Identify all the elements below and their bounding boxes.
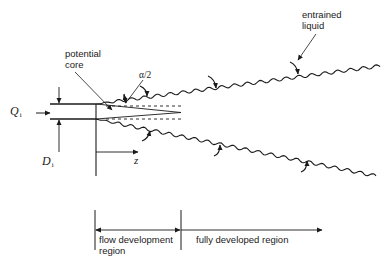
diameter-symbol: D bbox=[42, 154, 51, 168]
flow-development-region-label: flow development region bbox=[99, 234, 173, 256]
z-label: z bbox=[134, 155, 138, 166]
entrained-liquid-label-line2: liquid bbox=[302, 20, 342, 31]
flow-development-label-line1: flow development bbox=[99, 234, 173, 245]
half-angle-leader bbox=[128, 80, 143, 100]
half-angle-label: α/2 bbox=[139, 70, 151, 81]
flow-development-arrow-back bbox=[95, 228, 101, 233]
potential-core-label: potential core bbox=[65, 48, 101, 70]
entrainment-arrow-3 bbox=[290, 62, 298, 74]
entrainment-arrow-5 bbox=[214, 145, 220, 156]
entrained-liquid-leader bbox=[298, 34, 316, 60]
jet-boundary-lower bbox=[96, 119, 376, 176]
entrainment-arrow-4 bbox=[142, 131, 150, 141]
flow-rate-subscript: i bbox=[20, 111, 22, 119]
diameter-subscript: i bbox=[52, 161, 54, 169]
jet-diagram bbox=[0, 0, 388, 266]
entrained-liquid-label-line1: entrained bbox=[302, 9, 342, 20]
potential-core-lower bbox=[96, 113, 181, 120]
potential-core-label-line2: core bbox=[65, 59, 101, 70]
flow-rate-label: Qi bbox=[10, 106, 22, 121]
diameter-label: Di bbox=[42, 156, 54, 171]
flow-rate-symbol: Q bbox=[10, 104, 19, 118]
fully-developed-region-label: fully developed region bbox=[196, 234, 288, 245]
entrainment-arrow-1 bbox=[140, 86, 147, 96]
entrainment-arrow-2 bbox=[208, 76, 216, 88]
entrained-liquid-label: entrained liquid bbox=[302, 9, 342, 31]
potential-core-label-line1: potential bbox=[65, 48, 101, 59]
fully-developed-label-line1: fully developed region bbox=[196, 234, 288, 245]
potential-core-upper bbox=[96, 104, 181, 113]
flow-development-label-line2: region bbox=[99, 245, 173, 256]
